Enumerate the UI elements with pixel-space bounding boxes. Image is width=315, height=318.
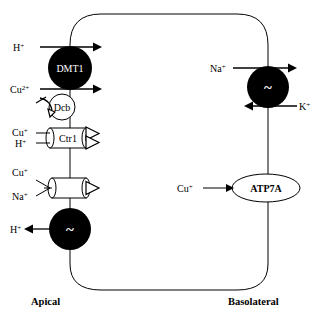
ion-label-cu-ctr1: Cu+ (12, 127, 28, 139)
arrow-right-icon (93, 43, 102, 52)
ion-label-h-top: H+ (13, 42, 24, 54)
ctr1-outlet-arrowheads (86, 127, 99, 149)
transporter-ctr1[interactable]: Ctr1 (46, 128, 90, 148)
chevron-right-icon-lower (86, 136, 99, 149)
ctr1-left-cap (46, 128, 54, 148)
ion-label-cu-cotrans: Cu+ (12, 167, 28, 179)
tilde-icon-basolateral: ~ (264, 80, 272, 96)
arrow-right-icon (93, 85, 102, 94)
ion-label-h-ctr1: H+ (15, 138, 26, 150)
ion-label-h-pump: H+ (10, 224, 21, 236)
tilde-icon: ~ (66, 222, 74, 238)
transporter-dcb[interactable]: Dcb (49, 94, 75, 120)
dcb-label: Dcb (54, 102, 71, 113)
cotransporter-barrel[interactable] (52, 178, 86, 198)
transporter-na-k-atpase[interactable]: ~ (247, 66, 289, 108)
arrow-left-icon (244, 102, 253, 111)
cell-membrane-outline (70, 14, 268, 290)
chevron-right-icon-cotransporter (86, 182, 99, 195)
ion-label-na-pump: Na+ (210, 63, 226, 75)
atp7a-label: ATP7A (250, 183, 282, 194)
transporter-proton-pump[interactable]: ~ (49, 208, 91, 250)
membrane-top-path (70, 14, 268, 100)
membrane-bottom-path (70, 205, 268, 290)
cell-diagram-svg: H+ DMT1 Cu2+ Dcb C (0, 0, 315, 318)
label-basolateral: Basolateral (228, 296, 279, 307)
cu-to-atp7a-arrow (203, 184, 234, 192)
arrow-left-icon (24, 225, 33, 234)
ion-label-na-cotrans: Na+ (12, 191, 28, 203)
ctr1-label: Ctr1 (59, 133, 77, 144)
ion-label-k-pump: K+ (299, 101, 310, 113)
transporter-dmt1[interactable]: DMT1 (48, 46, 92, 90)
arrow-right-icon (288, 64, 297, 73)
h-efflux-arrow-pump (24, 225, 49, 234)
dmt1-label: DMT1 (56, 63, 83, 74)
transporter-atp7a[interactable]: ATP7A (232, 174, 300, 202)
label-apical: Apical (31, 296, 60, 307)
ion-label-cu2: Cu2+ (10, 84, 29, 96)
transporter-cu-na-cotransporter[interactable] (48, 178, 90, 198)
diagram-canvas: H+ DMT1 Cu2+ Dcb C (0, 0, 315, 318)
ion-label-cu-atp7a: Cu+ (177, 183, 193, 195)
